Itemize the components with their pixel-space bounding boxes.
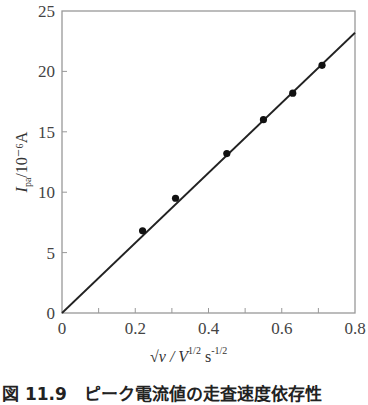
y-tick-label: 5 — [47, 244, 56, 263]
svg-text:Ipa/10⁻⁶A: Ipa/10⁻⁶A — [13, 131, 33, 193]
x-tick-label: 0.2 — [125, 319, 146, 338]
y-tick-labels: 0510152025 — [38, 2, 55, 323]
x-label-main: √v / V — [150, 348, 190, 365]
svg-text:√v / V1/2s-1/2: √v / V1/2s-1/2 — [150, 345, 227, 365]
y-tick-label: 0 — [47, 304, 56, 323]
x-tick-label: 0.8 — [344, 319, 365, 338]
fit-line-path — [62, 33, 355, 313]
data-point — [260, 116, 267, 123]
x-label-exp1: 1/2 — [188, 345, 201, 356]
data-point — [289, 90, 296, 97]
y-tick-label: 25 — [38, 2, 55, 21]
x-axis-label: √v / V1/2s-1/2 — [150, 345, 227, 365]
x-tick-labels: 00.20.40.60.8 — [58, 319, 366, 338]
y-tick-label: 15 — [38, 123, 55, 142]
y-tick-label: 20 — [38, 62, 55, 81]
x-ticks — [99, 308, 319, 313]
figure-caption: 図 11.9 ピーク電流値の走査速度依存性 — [2, 380, 322, 405]
y-ticks — [62, 71, 67, 252]
data-point — [139, 227, 146, 234]
x-tick-label: 0.4 — [198, 319, 220, 338]
data-point — [223, 150, 230, 157]
data-point — [172, 195, 179, 202]
y-label-unit: /10⁻⁶A — [13, 131, 30, 177]
y-axis-label: Ipa/10⁻⁶A — [13, 131, 33, 193]
fit-line — [62, 33, 355, 313]
x-tick-label: 0.6 — [271, 319, 292, 338]
x-tick-label: 0 — [58, 319, 67, 338]
y-tick-label: 10 — [38, 183, 55, 202]
x-label-exp2: -1/2 — [211, 345, 227, 356]
data-point — [318, 62, 325, 69]
plot-frame — [62, 11, 355, 313]
